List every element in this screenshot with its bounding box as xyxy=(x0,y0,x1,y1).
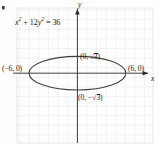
label-left-vertex: (−6, 0) xyxy=(2,65,22,73)
radical-overbar xyxy=(97,94,100,95)
corner-mark-icon xyxy=(2,6,6,11)
label-bottom-covertex: (0, −√3) xyxy=(78,94,103,102)
equation-coefficient: 12 xyxy=(30,18,38,27)
ellipse-figure: x2 + 12y2 = 36 (0, √3) (0, −√3) (−6, 0) … xyxy=(0,0,159,148)
x-axis-label: x xyxy=(151,75,154,82)
label-top-close: ) xyxy=(98,52,100,61)
label-bottom-open: (0, xyxy=(78,93,88,102)
equation-plus: + xyxy=(23,18,28,27)
y-axis-label: y xyxy=(78,1,81,8)
equation-equals: = xyxy=(46,18,51,27)
label-bottom-radical: √3 xyxy=(92,94,100,102)
radical-overbar xyxy=(94,53,97,54)
label-top-covertex: (0, √3) xyxy=(80,53,100,61)
label-bottom-minus: − xyxy=(88,93,92,102)
equation-x-exponent: 2 xyxy=(19,16,22,22)
label-right-vertex: (6, 0) xyxy=(128,65,144,73)
equation-rhs: 36 xyxy=(52,18,60,27)
label-top-open: (0, xyxy=(80,52,90,61)
equation-y-exponent: 2 xyxy=(41,16,44,22)
equation-label: x2 + 12y2 = 36 xyxy=(15,17,60,27)
label-top-radical: √3 xyxy=(90,53,98,61)
label-bottom-close: ) xyxy=(100,93,102,102)
grid xyxy=(17,8,153,143)
